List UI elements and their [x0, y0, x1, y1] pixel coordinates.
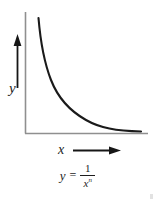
figure-container: y x y = 1 xn [0, 0, 155, 202]
y-axis-label: y [9, 81, 16, 96]
equation-fraction: 1 xn [80, 163, 95, 189]
x-axis-label: x [58, 143, 64, 157]
equation-row: y = 1 xn [60, 163, 96, 189]
equation-caption: y = 1 xn [0, 163, 155, 189]
fraction-numerator: 1 [82, 163, 94, 175]
inverse-power-curve [39, 18, 142, 132]
fraction-denominator: xn [81, 176, 95, 189]
equation-lhs: y [60, 168, 66, 184]
equation-equals-sign: = [69, 168, 78, 183]
y-direction-arrow-head-icon [14, 34, 22, 46]
denominator-exponent: n [88, 176, 92, 184]
x-direction-arrow-head-icon [109, 147, 121, 155]
corner-artifact-mark [150, 194, 153, 199]
